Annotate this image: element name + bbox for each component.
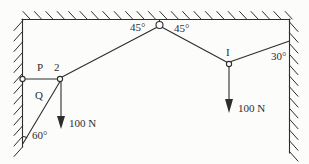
knot-2-pin-icon bbox=[57, 76, 62, 81]
force-left-label: 100 N bbox=[69, 117, 96, 129]
left-wall-hatching bbox=[14, 21, 23, 157]
angle-arc-60 bbox=[23, 137, 27, 138]
knot-i-pin-icon bbox=[226, 61, 231, 66]
force-right-label: 100 N bbox=[238, 102, 265, 114]
point-p-label: P bbox=[37, 61, 43, 73]
pins bbox=[20, 22, 232, 82]
angle-45-right-label: 45° bbox=[174, 22, 189, 34]
angle-45-left-label: 45° bbox=[130, 21, 145, 33]
point-2-label: 2 bbox=[54, 61, 60, 73]
line-work bbox=[14, 12, 298, 162]
pulley-rope-diagram: P 2 Q I 45° 45° 30° 60° 100 N 100 N bbox=[0, 0, 309, 164]
statics-figure: P 2 Q I 45° 45° 30° 60° 100 N 100 N bbox=[0, 0, 309, 164]
string-q-label: Q bbox=[35, 89, 43, 101]
force-arrow-left-head bbox=[57, 116, 65, 129]
pulley-icon bbox=[156, 22, 163, 29]
right-wall-hatching bbox=[290, 22, 299, 161]
rope-pulley-to-knotI bbox=[163, 28, 228, 63]
angle-60-label: 60° bbox=[32, 129, 47, 141]
rope-knot2-to-pulley bbox=[62, 28, 157, 78]
labels: P 2 Q I 45° 45° 30° 60° 100 N 100 N bbox=[32, 21, 286, 142]
angle-30-label: 30° bbox=[271, 50, 286, 62]
force-arrow-right-head bbox=[225, 99, 233, 113]
ceiling-hatching bbox=[23, 12, 292, 20]
point-i-label: I bbox=[226, 46, 230, 58]
wall-pin-icon bbox=[20, 76, 25, 81]
